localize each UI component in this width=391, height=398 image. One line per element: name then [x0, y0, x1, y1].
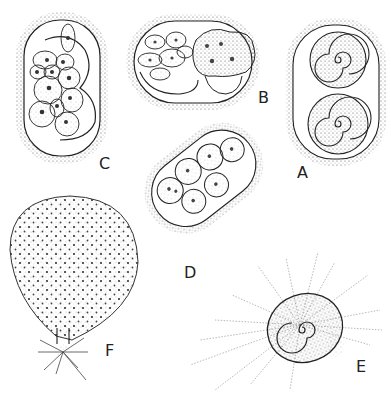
label-d: D [184, 263, 196, 282]
label-f: F [105, 341, 114, 360]
panel-a: A [286, 18, 386, 182]
label-e: E [356, 357, 366, 376]
label-b: B [258, 88, 269, 107]
large-cell [193, 29, 255, 76]
coiled-organism-upper [310, 32, 366, 88]
panel-f: F [10, 196, 138, 380]
panel-e: E [190, 252, 382, 390]
label-a: A [297, 163, 308, 182]
appendage [326, 333, 344, 357]
rhizoid-base [55, 344, 71, 360]
panel-d [128, 107, 279, 250]
sporangium-dots [10, 196, 138, 340]
label-c: C [99, 154, 110, 173]
panel-b: B [126, 14, 269, 110]
figure-canvas: C B A [0, 0, 391, 398]
panel-c: C [16, 12, 110, 173]
